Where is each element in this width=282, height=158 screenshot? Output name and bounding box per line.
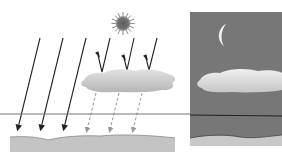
day-ground: [10, 135, 175, 152]
diffuse-radiation-arrows: [87, 93, 142, 130]
reflected-radiation-arrows: [96, 38, 157, 72]
day-cloud: [81, 69, 175, 92]
sun-icon: [112, 12, 135, 35]
night-ground: [190, 135, 282, 146]
day-night-radiation-diagram: [0, 0, 282, 158]
